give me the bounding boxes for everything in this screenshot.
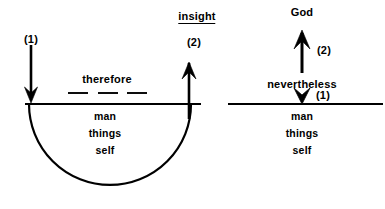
left-term-things: things bbox=[89, 127, 122, 139]
left-down-arrow-label: (1) bbox=[24, 33, 38, 45]
right-down-arrow-label: (1) bbox=[316, 89, 330, 101]
left-term-self: self bbox=[96, 144, 115, 156]
right-down-arrow-head bbox=[294, 88, 310, 104]
diagram-canvas: (1) therefore insight (2) man things sel… bbox=[0, 0, 385, 209]
left-term-man: man bbox=[94, 110, 116, 122]
left-up-arrow-label: (2) bbox=[187, 36, 201, 48]
right-up-arrow-label: (2) bbox=[317, 44, 331, 56]
therefore-label: therefore bbox=[82, 73, 131, 85]
god-label: God bbox=[291, 6, 314, 18]
right-term-self: self bbox=[293, 144, 312, 156]
diagram-vector-layer bbox=[0, 0, 385, 209]
insight-heading: insight bbox=[178, 10, 215, 24]
right-term-things: things bbox=[286, 127, 319, 139]
right-term-man: man bbox=[291, 110, 313, 122]
